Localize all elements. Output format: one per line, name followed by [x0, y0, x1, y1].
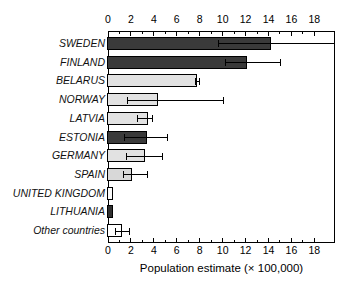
- bar-lithuania: [107, 205, 113, 218]
- x-axis-tick-top: [257, 31, 258, 34]
- x-axis-tick-bottom: [188, 240, 189, 243]
- x-axis-tick-bottom: [234, 240, 235, 243]
- x-axis-tick-bottom: [291, 238, 292, 243]
- bar-chart: 002244668810101212141416161818SWEDENFINL…: [0, 0, 355, 286]
- error-bar-cap: [334, 40, 335, 47]
- bar-united-kingdom: [107, 187, 113, 200]
- error-bar-line: [123, 174, 148, 175]
- x-axis-tick-label-top: 18: [300, 14, 328, 25]
- x-axis-tick-top: [108, 31, 109, 36]
- category-label-united-kingdom: UNITED KINGDOM: [1, 188, 105, 199]
- category-label-other-countries: Other countries: [1, 225, 105, 236]
- x-axis-tick-top: [130, 31, 131, 36]
- category-label-spain: SPAIN: [1, 169, 105, 180]
- x-axis-tick-bottom: [130, 238, 131, 243]
- error-bar-line: [115, 231, 130, 232]
- category-label-estonia: ESTONIA: [1, 132, 105, 143]
- x-axis-tick-top: [142, 31, 143, 34]
- error-bar-cap: [123, 171, 124, 178]
- error-bar-cap: [124, 134, 125, 141]
- category-label-norway: NORWAY: [1, 94, 105, 105]
- x-axis-tick-top: [188, 31, 189, 34]
- error-bar-cap: [195, 78, 196, 85]
- x-axis-tick-bottom: [211, 240, 212, 243]
- x-axis-tick-top: [119, 31, 120, 34]
- category-label-finland: FINLAND: [1, 57, 105, 68]
- x-axis-tick-bottom: [279, 240, 280, 243]
- error-bar-cap: [127, 97, 128, 104]
- error-bar-cap: [218, 40, 219, 47]
- x-axis-tick-bottom: [176, 238, 177, 243]
- x-axis-tick-top: [153, 31, 154, 36]
- error-bar-cap: [115, 228, 116, 235]
- category-label-latvia: LATVIA: [1, 113, 105, 124]
- error-bar-cap: [223, 97, 224, 104]
- x-axis-tick-top: [291, 31, 292, 36]
- x-axis-tick-top: [279, 31, 280, 34]
- x-axis-tick-bottom: [199, 238, 200, 243]
- x-axis-tick-top: [268, 31, 269, 36]
- x-axis-tick-top: [314, 31, 315, 36]
- error-bar-cap: [129, 228, 130, 235]
- error-bar-line: [127, 100, 223, 101]
- error-bar-line: [124, 137, 168, 138]
- category-label-germany: GERMANY: [1, 150, 105, 161]
- error-bar-cap: [126, 153, 127, 160]
- x-axis-tick-bottom: [165, 240, 166, 243]
- x-axis-tick-label-bottom: 18: [300, 245, 328, 256]
- error-bar-cap: [152, 115, 153, 122]
- x-axis-tick-top: [211, 31, 212, 34]
- x-axis-tick-bottom: [153, 238, 154, 243]
- x-axis-tick-bottom: [245, 238, 246, 243]
- x-axis-tick-top: [222, 31, 223, 36]
- error-bar-line: [218, 43, 335, 44]
- x-axis-tick-top: [165, 31, 166, 34]
- x-axis-tick-bottom: [142, 240, 143, 243]
- error-bar-cap: [225, 59, 226, 66]
- x-axis-tick-top: [176, 31, 177, 36]
- x-axis-tick-top: [302, 31, 303, 34]
- error-bar-cap: [147, 171, 148, 178]
- x-axis-tick-bottom: [314, 238, 315, 243]
- x-axis-tick-bottom: [108, 238, 109, 243]
- x-axis-tick-bottom: [119, 240, 120, 243]
- error-bar-cap: [280, 59, 281, 66]
- bar-belarus: [107, 74, 197, 87]
- error-bar-cap: [167, 134, 168, 141]
- error-bar-line: [225, 62, 281, 63]
- x-axis-tick-bottom: [222, 238, 223, 243]
- x-axis-title: Population estimate (× 100,000): [108, 262, 335, 275]
- error-bar-line: [137, 118, 153, 119]
- x-axis-tick-bottom: [302, 240, 303, 243]
- error-bar-cap: [162, 153, 163, 160]
- error-bar-line: [126, 156, 163, 157]
- x-axis-tick-top: [234, 31, 235, 34]
- error-bar-cap: [137, 115, 138, 122]
- category-label-lithuania: LITHUANIA: [1, 206, 105, 217]
- x-axis-tick-top: [199, 31, 200, 36]
- x-axis-tick-bottom: [257, 240, 258, 243]
- error-bar-cap: [199, 78, 200, 85]
- x-axis-tick-top: [245, 31, 246, 36]
- x-axis-tick-bottom: [268, 238, 269, 243]
- category-label-sweden: SWEDEN: [1, 38, 105, 49]
- category-label-belarus: BELARUS: [1, 75, 105, 86]
